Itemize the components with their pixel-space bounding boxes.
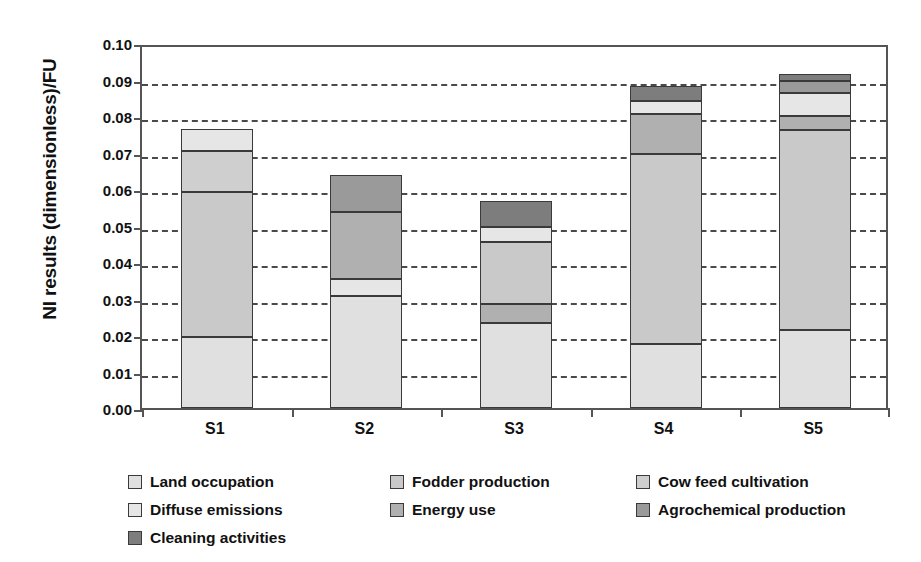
x-axis-tick-mark: [740, 408, 742, 417]
legend-swatch-icon: [636, 503, 650, 517]
bar-segment[interactable]: [480, 304, 552, 323]
x-axis-tick-label: S5: [753, 420, 873, 438]
legend-label: Diffuse emissions: [150, 501, 283, 519]
bar-segment[interactable]: [480, 201, 552, 227]
bar-segment[interactable]: [330, 212, 402, 279]
plot-area: [140, 45, 888, 410]
bar-segment[interactable]: [779, 74, 851, 81]
y-axis-tick-label: 0.03: [62, 292, 132, 309]
legend-item[interactable]: Fodder production: [390, 473, 636, 491]
bar-segment[interactable]: [630, 101, 702, 114]
legend-label: Fodder production: [412, 473, 550, 491]
stacked-bar[interactable]: [779, 43, 851, 408]
legend-item[interactable]: Agrochemical production: [636, 501, 908, 519]
legend-label: Land occupation: [150, 473, 274, 491]
x-axis-tick-label: S4: [604, 420, 724, 438]
x-axis-tick-label: S2: [304, 420, 424, 438]
bar-segment[interactable]: [181, 192, 253, 337]
legend-label: Cow feed cultivation: [658, 473, 809, 491]
bar-segment[interactable]: [779, 130, 851, 330]
bar-segment[interactable]: [181, 129, 253, 151]
y-axis-tick-label: 0.10: [62, 36, 132, 53]
legend-swatch-icon: [128, 503, 142, 517]
legend-label: Cleaning activities: [150, 529, 286, 547]
x-axis-tick-label: S3: [454, 420, 574, 438]
bar-segment[interactable]: [181, 337, 253, 408]
y-axis-tick-label: 0.08: [62, 109, 132, 126]
bar-segment[interactable]: [330, 296, 402, 408]
bar-segment[interactable]: [630, 344, 702, 408]
legend-swatch-icon: [636, 475, 650, 489]
bar-segment[interactable]: [779, 93, 851, 116]
x-axis-tick-mark: [142, 408, 144, 417]
x-axis-tick-label: S1: [155, 420, 275, 438]
stacked-bar[interactable]: [630, 43, 702, 408]
x-axis-tick-mark: [292, 408, 294, 417]
legend-swatch-icon: [128, 475, 142, 489]
legend-swatch-icon: [128, 531, 142, 545]
chart-legend: Land occupationFodder productionCow feed…: [128, 468, 908, 552]
y-axis-tick-label: 0.02: [62, 328, 132, 345]
y-axis-title: NI results (dimensionless)/FU: [39, 0, 61, 389]
y-axis-tick-label: 0.05: [62, 219, 132, 236]
bar-segment[interactable]: [630, 154, 702, 344]
bar-segment[interactable]: [779, 81, 851, 93]
y-axis-tick-label: 0.01: [62, 365, 132, 382]
bar-segment[interactable]: [630, 114, 702, 154]
legend-item[interactable]: Land occupation: [128, 473, 390, 491]
stacked-bar[interactable]: [480, 43, 552, 408]
legend-label: Energy use: [412, 501, 496, 519]
bar-segment[interactable]: [480, 227, 552, 242]
y-axis-tick-label: 0.04: [62, 255, 132, 272]
legend-item[interactable]: Cow feed cultivation: [636, 473, 908, 491]
y-axis-tick-label: 0.06: [62, 182, 132, 199]
x-axis-tick-mark: [591, 408, 593, 417]
legend-item[interactable]: Cleaning activities: [128, 529, 390, 547]
bar-segment[interactable]: [480, 242, 552, 304]
bar-segment[interactable]: [779, 116, 851, 130]
bar-segment[interactable]: [480, 323, 552, 408]
y-axis-tick-label: 0.09: [62, 73, 132, 90]
legend-swatch-icon: [390, 503, 404, 517]
bar-segment[interactable]: [330, 175, 402, 212]
legend-swatch-icon: [390, 475, 404, 489]
legend-item[interactable]: Diffuse emissions: [128, 501, 390, 519]
y-axis-tick-label: 0.00: [62, 401, 132, 418]
stacked-bar[interactable]: [181, 43, 253, 408]
legend-label: Agrochemical production: [658, 501, 846, 519]
legend-item[interactable]: Energy use: [390, 501, 636, 519]
bar-segment[interactable]: [181, 151, 253, 192]
bar-segment[interactable]: [630, 86, 702, 101]
chart-figure: NI results (dimensionless)/FU 0.100.090.…: [0, 0, 921, 562]
stacked-bar[interactable]: [330, 43, 402, 408]
x-axis-tick-mark: [888, 408, 890, 417]
bar-segment[interactable]: [330, 279, 402, 296]
x-axis-tick-mark: [441, 408, 443, 417]
bar-segment[interactable]: [779, 330, 851, 408]
y-axis-tick-label: 0.07: [62, 146, 132, 163]
